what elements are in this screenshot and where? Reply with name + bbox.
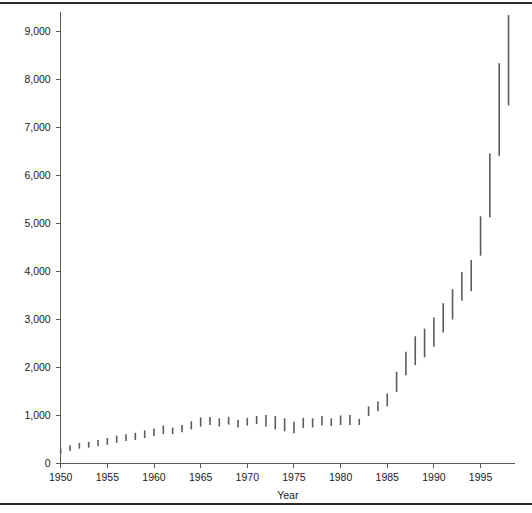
x-tick-label: 1995 <box>469 471 493 483</box>
y-tick-label: 0 <box>45 457 51 469</box>
y-axis: 01,0002,0003,0004,0005,0006,0007,0008,00… <box>24 12 60 469</box>
x-tick-label: 1975 <box>282 471 306 483</box>
y-tick-label: 2,000 <box>24 361 50 373</box>
data-bars <box>61 15 509 453</box>
x-tick-label: 1960 <box>142 471 166 483</box>
y-tick-label: 9,000 <box>24 25 50 37</box>
y-tick-label: 4,000 <box>24 265 50 277</box>
chart-figure: 01,0002,0003,0004,0005,0006,0007,0008,00… <box>0 0 532 513</box>
y-tick-label: 1,000 <box>24 409 50 421</box>
x-tick-label: 1980 <box>329 471 353 483</box>
y-tick-label: 7,000 <box>24 121 50 133</box>
y-tick-label: 6,000 <box>24 169 50 181</box>
x-tick-label: 1990 <box>422 471 446 483</box>
y-tick-label: 5,000 <box>24 217 50 229</box>
y-tick-label: 8,000 <box>24 73 50 85</box>
x-tick-label: 1955 <box>96 471 120 483</box>
x-axis: 1950195519601965197019751980198519901995 <box>49 463 515 483</box>
x-tick-label: 1970 <box>236 471 260 483</box>
x-tick-label: 1965 <box>189 471 213 483</box>
x-axis-title: Year <box>277 489 299 501</box>
x-tick-label: 1985 <box>376 471 400 483</box>
y-tick-label: 3,000 <box>24 313 50 325</box>
range-bar-chart: 01,0002,0003,0004,0005,0006,0007,0008,00… <box>0 0 532 513</box>
x-tick-label: 1950 <box>49 471 73 483</box>
